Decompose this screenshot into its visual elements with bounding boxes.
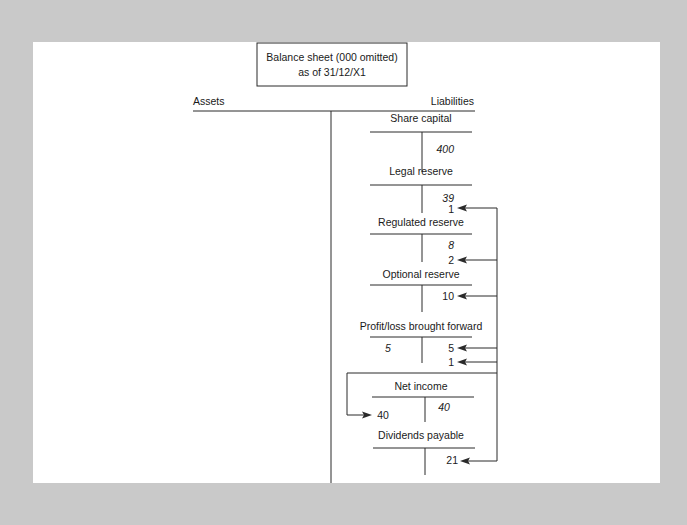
account-net-income: Net income 40 40 xyxy=(372,380,474,422)
account-regulated-reserve: Regulated reserve 8 2 xyxy=(370,216,472,266)
account-legal-reserve: Legal reserve 39 1 xyxy=(370,165,472,215)
credit-value: 5 xyxy=(448,342,454,354)
credit-value: 40 xyxy=(438,401,450,413)
assets-header: Assets xyxy=(193,95,225,107)
credit-value: 2 xyxy=(448,254,454,266)
account-title: Dividends payable xyxy=(378,429,464,441)
account-title: Optional reserve xyxy=(382,268,459,280)
title-line-2: as of 31/12/X1 xyxy=(298,66,366,78)
credit-value: 400 xyxy=(436,143,454,155)
credit-value: 1 xyxy=(448,203,454,215)
title-box xyxy=(257,43,407,86)
account-title: Profit/loss brought forward xyxy=(360,320,483,332)
account-title: Net income xyxy=(394,380,447,392)
account-title: Share capital xyxy=(390,112,451,124)
title-line-1: Balance sheet (000 omitted) xyxy=(266,51,397,63)
liabilities-header: Liabilities xyxy=(431,95,474,107)
balance-sheet-diagram: Balance sheet (000 omitted) as of 31/12/… xyxy=(0,0,687,525)
credit-value: 8 xyxy=(448,239,454,251)
account-dividends-payable: Dividends payable 21 xyxy=(373,429,475,475)
account-optional-reserve: Optional reserve 10 xyxy=(370,268,472,312)
account-title: Legal reserve xyxy=(389,165,453,177)
debit-value: 40 xyxy=(377,409,389,421)
credit-value: 21 xyxy=(446,454,458,466)
debit-value: 5 xyxy=(385,342,391,354)
credit-value: 1 xyxy=(448,356,454,368)
credit-value: 10 xyxy=(442,290,454,302)
account-title: Regulated reserve xyxy=(378,216,464,228)
account-share-capital: Share capital 400 xyxy=(370,112,472,172)
